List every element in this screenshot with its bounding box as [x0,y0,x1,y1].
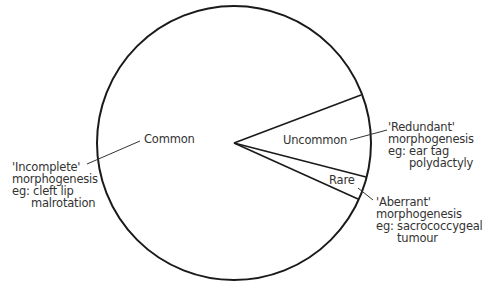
wedge-line-uncommon-rare [234,143,366,177]
segment-label-common: Common [144,132,195,146]
annotation-incomplete-line-4: malrotation [31,196,95,210]
segment-label-rare: Rare [329,173,355,187]
annotation-redundant-line-4: polydactyly [409,156,474,170]
segment-label-uncommon: Uncommon [283,133,347,147]
wedge-line-rare-bottom [234,143,358,199]
annotation-incomplete: 'Incomplete' morphogenesis eg: cleft lip… [12,160,98,210]
leader-line-uncommon [350,130,387,140]
annotation-redundant: 'Redundant' morphogenesis eg: ear tag po… [388,120,474,170]
annotation-aberrant-line-4: tumour [397,231,438,245]
leader-line-common [87,141,140,164]
annotation-aberrant: 'Aberrant' morphogenesis eg: sacrococcyg… [376,195,483,245]
morphogenesis-pie-diagram: Common Uncommon Rare 'Incomplete' morpho… [0,0,486,293]
